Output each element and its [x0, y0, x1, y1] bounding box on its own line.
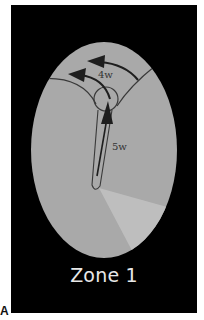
- zone-label: Zone 1: [11, 264, 197, 286]
- panel-letter: A: [0, 304, 9, 318]
- label-5w: 5w: [112, 141, 127, 152]
- label-4w: 4w: [98, 69, 113, 80]
